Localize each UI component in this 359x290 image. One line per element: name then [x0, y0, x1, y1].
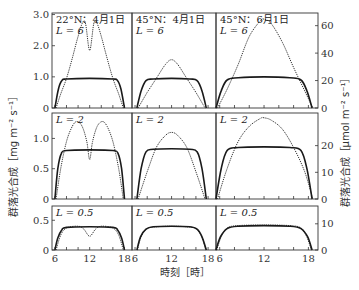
y-tick-label-left: 0 — [43, 103, 49, 114]
solid-series-line — [55, 227, 125, 250]
y-tick-label-left: 2.0 — [33, 40, 49, 51]
panel-r2-c2: L = 0.5 — [216, 206, 318, 250]
y-tick-label-left: 0 — [43, 245, 49, 256]
panel-location-date-label: 45°N：4月1日 — [136, 14, 205, 25]
panel-frame — [52, 113, 132, 199]
y-tick-label-right: 40 — [321, 48, 334, 59]
panel-lai-label: L = 6 — [219, 25, 248, 36]
y-tick-label-right: 20 — [321, 140, 334, 151]
y-tick-label-right: 10 — [321, 218, 334, 229]
panel-r1-c2: L = 2 — [216, 113, 318, 199]
solid-series-line — [137, 226, 206, 250]
y-tick-label-left: 1.0 — [33, 71, 49, 82]
x-tick-label: 6 — [132, 253, 138, 264]
panel-r1-c1: L = 2 — [132, 113, 216, 199]
panel-r2-c0: L = 0.5 — [52, 206, 132, 250]
panel-r1-c0: L = 2 — [52, 113, 132, 199]
dotted-series-line — [218, 117, 313, 199]
x-tick-label: 12 — [83, 253, 96, 264]
x-tick-label: 18 — [118, 253, 131, 264]
panel-lai-label: L = 6 — [55, 25, 84, 36]
x-tick-label: 6 — [52, 253, 58, 264]
x-tick-label: 18 — [302, 253, 315, 264]
panel-location-date-label: 45°N：6月1日 — [220, 14, 289, 25]
panel-r0-c1: 45°N：4月1日L = 6 — [132, 13, 216, 108]
dotted-series-line — [56, 122, 123, 200]
panel-location-date-label: 22°N：4月1日 — [56, 14, 125, 25]
y-tick-label-right: 60 — [321, 20, 334, 31]
y-tick-label-left: 0 — [43, 194, 49, 205]
dotted-series-line — [138, 60, 205, 108]
panel-r0-c2: 45°N：6月1日L = 6 — [216, 13, 318, 108]
y-axis-title-left: 群落光合成［mg m⁻² s⁻¹］ — [7, 91, 19, 217]
dotted-series-line — [56, 226, 123, 250]
panel-r2-c1: L = 0.5 — [132, 206, 216, 250]
y-tick-label-left: 0.5 — [33, 215, 49, 226]
y-tick-label-right: 20 — [321, 75, 334, 86]
x-tick-label: 12 — [165, 253, 178, 264]
x-tick-label: 6 — [217, 253, 223, 264]
panel-r0-c0: 22°N：4月1日L = 6 — [52, 13, 132, 108]
panel-lai-label: L = 0.5 — [219, 207, 257, 218]
dotted-series-line — [138, 132, 205, 199]
panel-lai-label: L = 2 — [135, 114, 164, 125]
photosynthesis-figure: 22°N：4月1日L = 645°N：4月1日L = 645°N：6月1日L =… — [0, 0, 359, 290]
y-tick-label-left: 3.0 — [33, 9, 49, 20]
panel-lai-label: L = 2 — [55, 114, 84, 125]
y-tick-label-right: 0 — [321, 194, 327, 205]
solid-series-line — [137, 149, 206, 199]
y-tick-label-left: 1.0 — [33, 133, 49, 144]
x-tick-label: 12 — [258, 253, 271, 264]
solid-series-line — [216, 147, 312, 199]
panel-lai-label: L = 0.5 — [135, 207, 173, 218]
dotted-series-line — [217, 225, 312, 250]
y-tick-label-left: 0.5 — [33, 163, 49, 174]
x-tick-label: 18 — [202, 253, 215, 264]
solid-series-line — [216, 226, 312, 250]
panel-lai-label: L = 0.5 — [55, 207, 93, 218]
panel-lai-label: L = 6 — [135, 25, 164, 36]
dotted-series-line — [138, 226, 206, 250]
panel-grid: 22°N：4月1日L = 645°N：4月1日L = 645°N：6月1日L =… — [52, 13, 318, 250]
x-axis-title: 時刻［時］ — [160, 266, 210, 278]
panel-lai-label: L = 2 — [219, 114, 248, 125]
solid-series-line — [55, 150, 125, 199]
y-tick-label-right: 0 — [321, 245, 327, 256]
y-axis-title-right: 群落光合成［µmol m⁻² s⁻¹］ — [339, 73, 351, 208]
y-tick-label-right: 0 — [321, 103, 327, 114]
y-tick-label-right: 10 — [321, 167, 334, 178]
